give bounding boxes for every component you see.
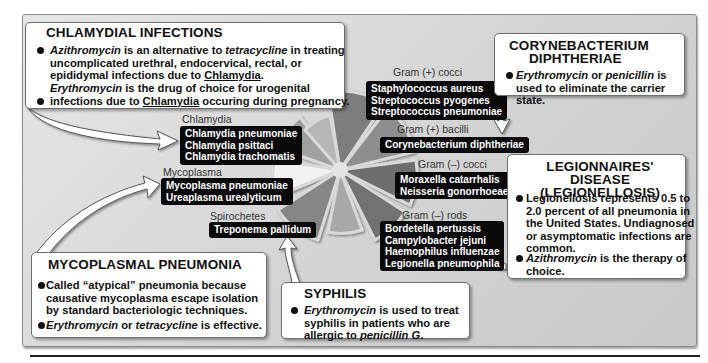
bullet-atypical-pneumonia: Called “atypical” pneumonia because caus…	[35, 279, 274, 317]
title-line: DIPHTHERIAE	[509, 52, 649, 65]
drug-name: tetracycline	[136, 319, 198, 331]
organism: Ureaplasma urealyticum	[166, 192, 288, 204]
text: or	[588, 69, 605, 81]
arrow-mycoplasmal	[35, 176, 160, 255]
bullet-erythromycin-coryne: Erythromycin or penicillin is used to el…	[503, 69, 694, 107]
organism: Neisseria gonorrhoeae	[400, 186, 508, 198]
organism-box-chlamydia: Chlamydia pneumoniae Chlamydia psittaci …	[180, 126, 302, 165]
organism: Mycoplasma pneumoniae	[166, 180, 288, 192]
group-label-mycoplasma: Mycoplasma	[163, 166, 222, 178]
text: or	[118, 319, 135, 331]
drug-name: penicillin G	[360, 329, 420, 341]
drug-name: Erythromycin	[46, 319, 118, 331]
arrow-chlamydial	[28, 108, 178, 150]
organism-box-mycoplasma: Mycoplasma pneumoniae Ureaplasma urealyt…	[161, 178, 293, 205]
organism-box-gram-neg-rods: Bordetella pertussis Campylobacter jejun…	[380, 221, 504, 271]
callout-title: SYPHILIS	[304, 288, 366, 301]
organism-link: Chlamydia	[143, 95, 200, 107]
callout-corynebacterium-diphtheriae: CORYNEBACTERIUM DIPHTHERIAE Erythromycin…	[494, 33, 685, 96]
callout-mycoplasmal-pneumonia: MYCOPLASMAL PNEUMONIA Called “atypical” …	[31, 252, 267, 338]
organism-box-gram-pos-cocci: Staphylococcus aureus Streptococcus pyog…	[366, 81, 507, 120]
organism: Haemophilus influenzae	[385, 246, 499, 258]
organism: Treponema pallidum	[214, 224, 311, 236]
bullet-erythromycin-chlamydia: Erythromycin is the drug of choice for u…	[34, 82, 350, 107]
organism: Moraxella catarrhalis	[400, 174, 508, 186]
bullet-azithromycin-legionella: Azithromycin is the therapy of choice.	[513, 252, 696, 277]
organism: Chlamydia psittaci	[185, 140, 297, 152]
group-label-gram-neg-rods: Gram (–) rods	[402, 209, 467, 221]
callout-title: MYCOPLASMAL PNEUMONIA	[48, 259, 242, 272]
text: occuring during pregnancy.	[199, 95, 349, 107]
group-label-gram-neg-cocci: Gram (–) cocci	[418, 158, 487, 170]
bullet-erythromycin-mycoplasma: Erythromycin or tetracycline is effectiv…	[35, 319, 274, 332]
organism: Staphylococcus aureus	[371, 83, 502, 95]
text: .	[420, 329, 423, 341]
callout-syphilis: SYPHILIS Erythromycin is used to treat s…	[281, 282, 470, 339]
text: is effective.	[198, 319, 262, 331]
group-label-chlamydia: Chlamydia	[182, 113, 232, 125]
drug-name: Azithromycin	[526, 252, 597, 264]
drug-name: Erythromycin	[50, 82, 122, 94]
organism: Campylobacter jejuni	[385, 235, 499, 247]
organism: Legionella pneumophila	[385, 258, 499, 270]
text: is an alternative to	[121, 44, 225, 56]
organism: Corynebacterium diphtheriae	[385, 139, 524, 151]
callout-title: CORYNEBACTERIUM DIPHTHERIAE	[509, 39, 649, 65]
drug-name: Erythromycin	[304, 304, 376, 316]
group-label-gram-pos-bacilli: Gram (+) bacilli	[397, 123, 468, 135]
organism-link: Chlamydia	[204, 69, 261, 81]
text: .	[261, 69, 264, 81]
drug-name: tetracycline	[225, 44, 287, 56]
organism: Chlamydia pneumoniae	[185, 128, 297, 140]
group-label-spirochetes: Spirochetes	[210, 210, 265, 222]
organism: Streptococcus pyogenes	[371, 95, 502, 107]
arrow-syphilis	[279, 236, 300, 283]
callout-legionnaires-disease: LEGIONNAIRES' DISEASE (LEGIONELLOSIS) Le…	[507, 154, 686, 279]
organism-box-gram-neg-cocci: Moraxella catarrhalis Neisseria gonorrho…	[395, 172, 513, 199]
organism: Chlamydia trachomatis	[185, 151, 297, 163]
drug-name: Azithromycin	[50, 44, 121, 56]
drug-name: Erythromycin	[516, 69, 588, 81]
callout-title: CHLAMYDIAL INFECTIONS	[46, 27, 223, 40]
group-label-gram-pos-cocci: Gram (+) cocci	[393, 66, 462, 78]
bullet-azithromycin-chlamydia: Azithromycin is an alternative to tetrac…	[34, 44, 350, 82]
organism: Bordetella pertussis	[385, 223, 499, 235]
organism-box-spirochetes: Treponema pallidum	[209, 222, 316, 238]
title-line: LEGIONNAIRES' DISEASE	[520, 160, 680, 186]
organism: Streptococcus pneumoniae	[371, 106, 502, 118]
organism-box-gram-pos-bacilli: Corynebacterium diphtheriae	[380, 137, 529, 153]
bullet-erythromycin-syphilis: Erythromycin is used to treat syphilis i…	[288, 304, 482, 342]
callout-chlamydial-infections: CHLAMYDIAL INFECTIONS Azithromycin is an…	[25, 22, 345, 109]
bullet-legionellosis-stats: Legionellosis represents 0.5 to 2.0 perc…	[513, 192, 696, 255]
drug-name: penicillin	[606, 69, 655, 81]
